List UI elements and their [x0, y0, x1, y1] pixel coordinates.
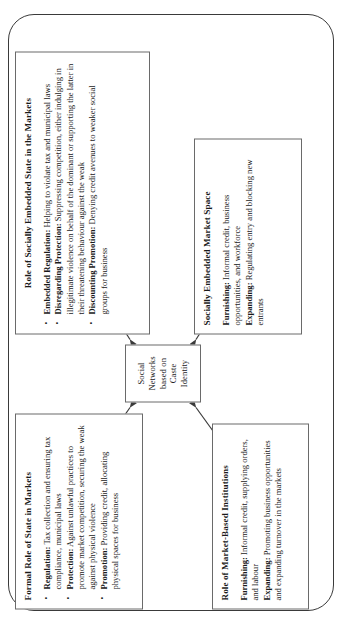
node-role-of-socially-embedded-state: Role of Socially Embedded State in the M…: [15, 51, 150, 334]
center-line-1: Social: [136, 362, 146, 384]
paragraph: Expanding: Regulating entry and blocking…: [244, 147, 267, 325]
paragraph: Furnishing: Informal credit, business op…: [221, 147, 244, 325]
center-line-4: Caste Identity: [168, 359, 189, 387]
list-item: Promotion: Providing credit, allocating …: [99, 422, 122, 600]
list-item: Discounting Promotion: Denying credit av…: [87, 60, 110, 325]
bullet-list-formal-role-of-state: Regulation: Tax collection and ensuring …: [42, 422, 121, 600]
bullet-lead: Promotion:: [99, 547, 109, 589]
node-socially-embedded-market-space: Socially Embedded Market Space Furnishin…: [194, 138, 302, 334]
paragraph-lead: Furnishing:: [239, 557, 249, 600]
node-title-socially-embedded-market-space: Socially Embedded Market Space: [202, 147, 213, 325]
node-title-role-of-socially-embedded-state: Role of Socially Embedded State in the M…: [23, 60, 34, 325]
node-formal-role-of-state: Formal Role of State in Markets Regulati…: [15, 413, 143, 609]
node-title-formal-role-of-state: Formal Role of State in Markets: [23, 422, 34, 600]
paragraph-lead: Expanding:: [262, 557, 272, 600]
body-role-of-market-based-institutions: Furnishing: Informal credit, supplying o…: [239, 432, 284, 600]
bullet-lead: Discounting Promotion:: [87, 226, 97, 314]
list-item: Regulation: Tax collection and ensuring …: [42, 422, 65, 600]
diagram-stage: Formal Role of State in Markets Regulati…: [0, 0, 342, 623]
bullet-list-role-of-socially-embedded-state: Embedded Regulation: Helping to violate …: [42, 60, 110, 325]
paragraph-lead: Expanding:: [244, 282, 254, 325]
bullet-text: Helping to violate tax and municipal law…: [42, 83, 52, 229]
paragraph: Expanding: Promoting business opportunit…: [262, 432, 285, 600]
bullet-lead: Disregarding Protection:: [53, 223, 63, 314]
bullet-lead: Regulation:: [42, 546, 52, 589]
paragraph: Furnishing: Informal credit, supplying o…: [239, 432, 262, 600]
list-item: Disregarding Protection: Suppressing com…: [53, 60, 87, 325]
node-title-role-of-market-based-institutions: Role of Market-Based Institutions: [220, 432, 231, 600]
center-line-3: based on: [158, 357, 168, 388]
figure-page: Formal Role of State in Markets Regulati…: [0, 0, 342, 623]
node-social-networks-caste-identity: Social Networks based on Caste Identity: [125, 344, 201, 402]
center-line-2: Networks: [147, 356, 157, 390]
list-item: Protection: Against unlawful practices t…: [65, 422, 99, 600]
node-role-of-market-based-institutions: Role of Market-Based Institutions Furnis…: [212, 423, 309, 609]
paragraph-lead: Furnishing:: [221, 282, 231, 325]
node-title-social-networks-caste-identity: Social Networks based on Caste Identity: [136, 350, 190, 396]
bullet-lead: Protection:: [65, 548, 75, 589]
list-item: Embedded Regulation: Helping to violate …: [42, 60, 53, 325]
body-socially-embedded-market-space: Furnishing: Informal credit, business op…: [221, 147, 266, 325]
bullet-lead: Embedded Regulation:: [42, 229, 52, 314]
